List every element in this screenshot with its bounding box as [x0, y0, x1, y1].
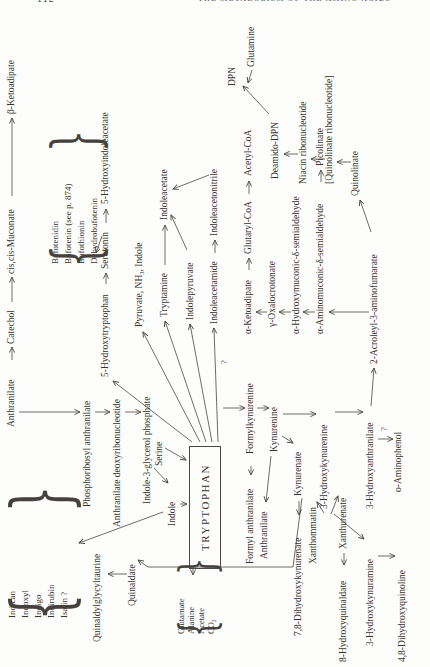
alpha-aminomuconic-semialdehyde: α-Aminomuconic-δ-semialdehyde	[315, 204, 326, 334]
5-hydroxytryptophan: 5-Hydroxytryptophan	[100, 294, 111, 377]
page-number: 112	[37, 0, 55, 4]
tryptophan-box: TRYPTOPHAN	[189, 446, 221, 569]
dpn: DPN	[227, 67, 238, 86]
alpha-ketoadipate: α-Ketoadipate	[243, 280, 254, 334]
7-8-dihydroxykynurenate: 7,8-Dihydroxykynurenate	[293, 538, 304, 636]
quinaldylglycyltaurine: Quinaldylglycyltaurine	[92, 554, 103, 642]
5-hydroxyindoleacetate: 5-Hydroxyindoleacetate	[100, 112, 111, 204]
xanthurenate: Xanthurenate	[338, 498, 349, 549]
running-head: THE METABOLISM OF THE AMINO ACIDS	[198, 0, 430, 3]
o-aminophenol: o-Aminophenol	[393, 432, 404, 492]
2-acroleyl-3-aminofumarate: 2-Acroleyl-3-aminofumarate	[369, 254, 380, 364]
pyruvate-nh3-indole: Pyruvate, NH₃, Indole	[134, 242, 145, 327]
page-header: 112 THE METABOLISM OF THE AMINO ACIDS	[0, 0, 430, 5]
anthranilate-top: Anthranilate	[6, 380, 17, 427]
uncertain-step-question-mark: ?	[379, 427, 389, 431]
4-8-dihydroxyquinoline: 4,8-Dihydroxyquinoline	[397, 570, 408, 662]
3-hydroxykynuramine: 3-Hydroxykynuramine	[365, 559, 376, 646]
formyl-anthranilate: Formyl anthranilate	[245, 489, 256, 564]
book-page: { "header": { "page_number": "112", "run…	[0, 0, 430, 667]
indole-pigments-group-left-brace: {	[0, 593, 86, 620]
cis-cis-muconate: cis,cis-Muconate	[6, 209, 17, 274]
anthranilate-deoxyribonucleotide: Anthranilate deoxyribonucleotide	[112, 399, 123, 527]
gamma-oxalocrotonate: γ-Oxalocrotonate	[267, 261, 278, 327]
glutamate-group-left-brace: {	[168, 620, 226, 637]
tryptophan-metabolism-figure: AnthranilateCatecholcis,cis-Muconateβ-Ke…	[3, 14, 428, 664]
indoleacetamide: Indoleacetamide	[209, 261, 220, 324]
quinolinate-ribonucleotide: [Quinolinate ribonucleotide]	[324, 76, 335, 184]
tryptophan-label: TRYPTOPHAN	[199, 464, 211, 551]
indoleacetonitrile: Indoleacetonitrile	[209, 169, 220, 236]
indoleacetate: Indoleacetate	[159, 169, 170, 220]
catechol: Catechol	[6, 310, 17, 344]
anthranilate: Anthranilate	[259, 512, 270, 559]
indole-pigments-group-right-brace: }	[0, 485, 86, 512]
indole: Indole	[167, 502, 178, 526]
formylkynurenine: Formylkynurenine	[245, 383, 256, 454]
beta-ketoadipate: β-Ketoadipate	[6, 60, 17, 114]
kynurenine: Kynurenine	[269, 407, 280, 452]
3-hydroxyanthranilate: 3-Hydroxyanthranilate	[365, 422, 376, 509]
quinaldate: Quinaldate	[127, 564, 138, 606]
3-hydroxykynurenine: 3-Hydroxykynurenine	[319, 425, 330, 509]
acetyl-coa: Acetyl-CoA	[243, 130, 254, 176]
kynurenate: Kynurenate	[293, 452, 304, 496]
8-hydroxyquinaldate: 8-Hydroxyquinaldate	[338, 581, 349, 662]
deamido-dpn: Deamido-DPN	[270, 122, 281, 179]
bufotenin-group-right-brace: }	[40, 130, 113, 152]
quinolinate: Quinolinate	[350, 151, 361, 196]
tryptamine: Tryptamine	[159, 273, 170, 317]
niacin-ribonucleotide: Niacin ribonucleotide	[298, 101, 309, 184]
indolepyruvate: Indolepyruvate	[185, 262, 196, 320]
uncertain-step-question-mark: ?	[219, 360, 229, 364]
glutamine: Glutamine	[246, 27, 257, 67]
indole-3-glycerol-phosphate: Indole-3-glycerol phosphate	[142, 397, 153, 504]
alpha-hydroxymuconic-semialdehyde: α-Hydroxymuconic-δ-semialdehyde	[291, 196, 302, 334]
glutaryl-coa: Glutaryl-CoA	[243, 201, 254, 254]
xanthommatin: Xanthommatin	[308, 507, 319, 564]
bufotenin-group-left-brace: {	[40, 245, 113, 267]
serine: Serine	[154, 442, 165, 466]
